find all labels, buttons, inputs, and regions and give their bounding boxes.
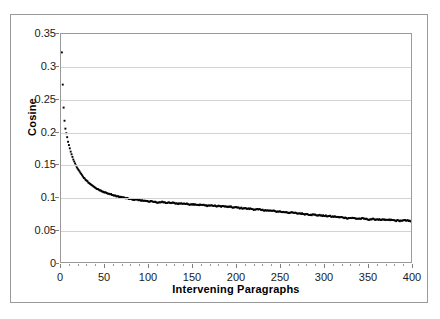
y-tick-mark: [55, 99, 59, 100]
data-point: [71, 156, 73, 158]
x-tick-mark-minor: [183, 264, 184, 266]
x-tick-mark-minor: [69, 264, 70, 266]
x-tick-mark: [60, 264, 61, 268]
x-tick-mark: [368, 264, 369, 268]
x-tick-mark-minor: [139, 264, 140, 266]
x-tick-mark-minor: [359, 264, 360, 266]
y-tick-mark: [55, 263, 59, 264]
y-tick-mark: [55, 132, 59, 133]
gridline: [61, 198, 411, 199]
x-tick-mark-minor: [298, 264, 299, 266]
data-point: [70, 151, 72, 153]
x-tick-mark-minor: [386, 264, 387, 266]
y-tick-label: 0.15: [12, 159, 56, 169]
y-tick-label: 0: [12, 258, 56, 268]
y-tick-mark: [55, 33, 59, 34]
x-tick-mark-minor: [166, 264, 167, 266]
x-tick-mark-minor: [315, 264, 316, 266]
data-point: [62, 84, 64, 86]
data-point: [64, 128, 66, 130]
data-series-svg: [61, 34, 412, 263]
y-tick-label: 0.2: [12, 127, 56, 137]
gridline: [61, 100, 411, 101]
x-tick-mark-minor: [245, 264, 246, 266]
x-tick-label: 350: [348, 272, 388, 283]
x-tick-mark-minor: [78, 264, 79, 266]
x-tick-mark-minor: [306, 264, 307, 266]
x-tick-mark-minor: [201, 264, 202, 266]
x-tick-label: 250: [260, 272, 300, 283]
x-tick-label: 50: [84, 272, 124, 283]
gridline: [61, 67, 411, 68]
gridline: [61, 133, 411, 134]
gridline: [61, 165, 411, 166]
y-axis: 00.050.10.150.20.250.30.35: [11, 33, 56, 263]
x-tick-mark: [192, 264, 193, 268]
x-tick-mark-minor: [113, 264, 114, 266]
x-tick-mark-minor: [210, 264, 211, 266]
x-tick-mark-minor: [377, 264, 378, 266]
x-tick-mark-minor: [350, 264, 351, 266]
data-point: [68, 144, 70, 146]
y-tick-mark: [55, 197, 59, 198]
data-point: [72, 159, 74, 161]
data-point: [61, 51, 63, 53]
y-tick-label: 0.35: [12, 28, 56, 38]
data-point: [67, 141, 69, 143]
y-tick-mark: [55, 66, 59, 67]
x-tick-label: 100: [128, 272, 168, 283]
x-tick-mark-minor: [333, 264, 334, 266]
y-tick-label: 0.1: [12, 192, 56, 202]
data-point: [71, 153, 73, 155]
chart-figure: Cosine 00.050.10.150.20.250.30.35 050100…: [10, 14, 428, 303]
x-tick-mark-minor: [218, 264, 219, 266]
x-tick-label: 300: [304, 272, 344, 283]
data-point: [73, 161, 75, 163]
y-tick-mark: [55, 164, 59, 165]
data-point: [63, 107, 65, 109]
x-tick-mark-minor: [227, 264, 228, 266]
x-tick-label: 0: [40, 272, 80, 283]
x-axis-title: Intervening Paragraphs: [60, 283, 412, 295]
x-axis: 050100150200250300350400: [60, 264, 412, 282]
x-tick-mark: [104, 264, 105, 268]
x-tick-mark-minor: [174, 264, 175, 266]
data-point: [69, 147, 71, 149]
x-tick-mark: [280, 264, 281, 268]
x-tick-mark-minor: [157, 264, 158, 266]
data-point: [66, 136, 68, 138]
plot-area: [60, 33, 412, 263]
x-tick-mark: [236, 264, 237, 268]
data-point: [410, 220, 412, 222]
x-tick-mark: [324, 264, 325, 268]
x-tick-mark-minor: [262, 264, 263, 266]
x-tick-label: 400: [392, 272, 432, 283]
x-tick-mark-minor: [403, 264, 404, 266]
x-tick-mark-minor: [95, 264, 96, 266]
x-tick-mark-minor: [130, 264, 131, 266]
x-tick-mark-minor: [271, 264, 272, 266]
gridline: [61, 231, 411, 232]
x-tick-mark-minor: [394, 264, 395, 266]
y-tick-label: 0.3: [12, 61, 56, 71]
data-point: [64, 120, 66, 122]
x-tick-label: 200: [216, 272, 256, 283]
x-tick-mark: [412, 264, 413, 268]
x-tick-mark-minor: [122, 264, 123, 266]
x-tick-mark-minor: [254, 264, 255, 266]
y-tick-label: 0.05: [12, 225, 56, 235]
x-tick-mark: [148, 264, 149, 268]
x-tick-mark-minor: [342, 264, 343, 266]
y-tick-label: 0.25: [12, 94, 56, 104]
y-tick-mark: [55, 230, 59, 231]
data-point: [411, 220, 412, 222]
x-tick-mark-minor: [289, 264, 290, 266]
x-tick-label: 150: [172, 272, 212, 283]
x-tick-mark-minor: [86, 264, 87, 266]
